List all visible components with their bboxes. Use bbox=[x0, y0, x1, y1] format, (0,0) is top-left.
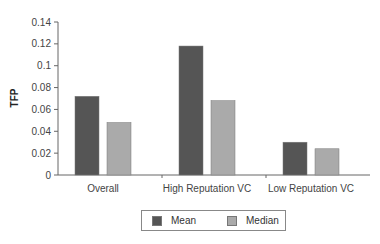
category-label: Low Reputation VC bbox=[268, 183, 354, 194]
x-axis bbox=[58, 175, 370, 178]
y-axis-title: TFP bbox=[9, 88, 20, 107]
legend-swatch-median bbox=[227, 216, 237, 226]
legend-item-median: Median bbox=[227, 215, 279, 226]
bar-chart: TFP 00.020.040.060.080.10.120.14 Overall… bbox=[0, 0, 380, 244]
y-tick-label: 0.06 bbox=[32, 104, 52, 115]
bar-median bbox=[315, 149, 339, 175]
category-label: High Reputation VC bbox=[163, 183, 251, 194]
y-tick-label: 0 bbox=[45, 170, 51, 181]
y-tick-label: 0.04 bbox=[32, 126, 52, 137]
bar-median bbox=[107, 123, 131, 175]
y-tick-label: 0.02 bbox=[32, 148, 52, 159]
bar-mean bbox=[75, 96, 99, 175]
legend-label-mean: Mean bbox=[171, 215, 196, 226]
y-tick-label: 0.14 bbox=[32, 17, 52, 28]
category-labels: OverallHigh Reputation VCLow Reputation … bbox=[87, 183, 354, 194]
bar-mean bbox=[179, 46, 203, 175]
legend-swatch-mean bbox=[152, 216, 162, 226]
legend-label-median: Median bbox=[246, 215, 279, 226]
bars bbox=[75, 46, 339, 175]
y-tick-label: 0.1 bbox=[37, 60, 51, 71]
category-label: Overall bbox=[87, 183, 119, 194]
y-tick-label: 0.08 bbox=[32, 82, 52, 93]
legend-item-mean: Mean bbox=[152, 215, 196, 226]
bar-median bbox=[211, 101, 235, 175]
y-tick-label: 0.12 bbox=[32, 38, 52, 49]
y-axis: 00.020.040.060.080.10.120.14 bbox=[32, 17, 58, 181]
bar-mean bbox=[283, 142, 307, 175]
legend: Mean Median bbox=[141, 210, 286, 231]
